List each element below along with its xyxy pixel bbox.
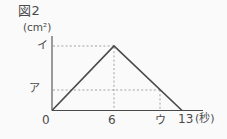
x-tick-13-label: 13 (178, 113, 193, 125)
y-tick-i-label: イ (37, 40, 48, 51)
figure-2-graph: 図2 (cm²) イ ア 0 6 ウ 13 (秒) (0, 0, 227, 139)
x-axis-unit-label: (秒) (195, 113, 215, 124)
y-tick-a-label: ア (29, 83, 40, 94)
area-vs-time-graph-line (52, 46, 182, 111)
y-axis-unit-label: (cm²) (23, 22, 51, 33)
x-tick-0-label: 0 (42, 114, 50, 126)
figure-title: 図2 (18, 4, 40, 17)
x-tick-6-label: 6 (108, 114, 116, 126)
x-tick-u-label: ウ (155, 115, 166, 126)
